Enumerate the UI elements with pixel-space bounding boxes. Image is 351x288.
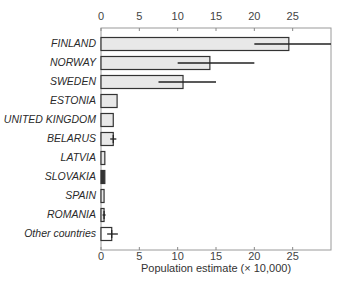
- category-label: FINLAND: [51, 37, 96, 49]
- tick-label-top: 15: [210, 10, 222, 22]
- bar: [101, 190, 104, 203]
- category-label: BELARUS: [47, 132, 96, 144]
- category-label: SLOVAKIA: [45, 170, 96, 182]
- category-label: Other countries: [24, 227, 96, 239]
- tick-label-bottom: 5: [136, 250, 142, 262]
- tick-label-top: 20: [248, 10, 260, 22]
- tick-label-top: 25: [287, 10, 299, 22]
- category-label: ROMANIA: [47, 208, 96, 220]
- category-label: SWEDEN: [50, 75, 96, 87]
- tick-label-bottom: 15: [210, 250, 222, 262]
- tick-label-top: 0: [98, 10, 104, 22]
- bar: [101, 152, 105, 165]
- tick-label-bottom: 0: [98, 250, 104, 262]
- tick-label-top: 10: [172, 10, 184, 22]
- tick-label-bottom: 10: [172, 250, 184, 262]
- category-label: UNITED KINGDOM: [4, 113, 96, 125]
- tick-label-top: 5: [136, 10, 142, 22]
- bars: [101, 38, 289, 241]
- tick-label-bottom: 20: [248, 250, 260, 262]
- bar: [101, 171, 105, 184]
- tick-label-bottom: 25: [287, 250, 299, 262]
- x-axis-label: Population estimate (× 10,000): [141, 262, 291, 274]
- category-label: SPAIN: [65, 189, 96, 201]
- category-label: LATVIA: [61, 151, 96, 163]
- bar: [101, 114, 113, 127]
- category-label: ESTONIA: [50, 94, 96, 106]
- category-label: NORWAY: [50, 56, 96, 68]
- bar: [101, 95, 117, 108]
- error-bars: [103, 44, 331, 238]
